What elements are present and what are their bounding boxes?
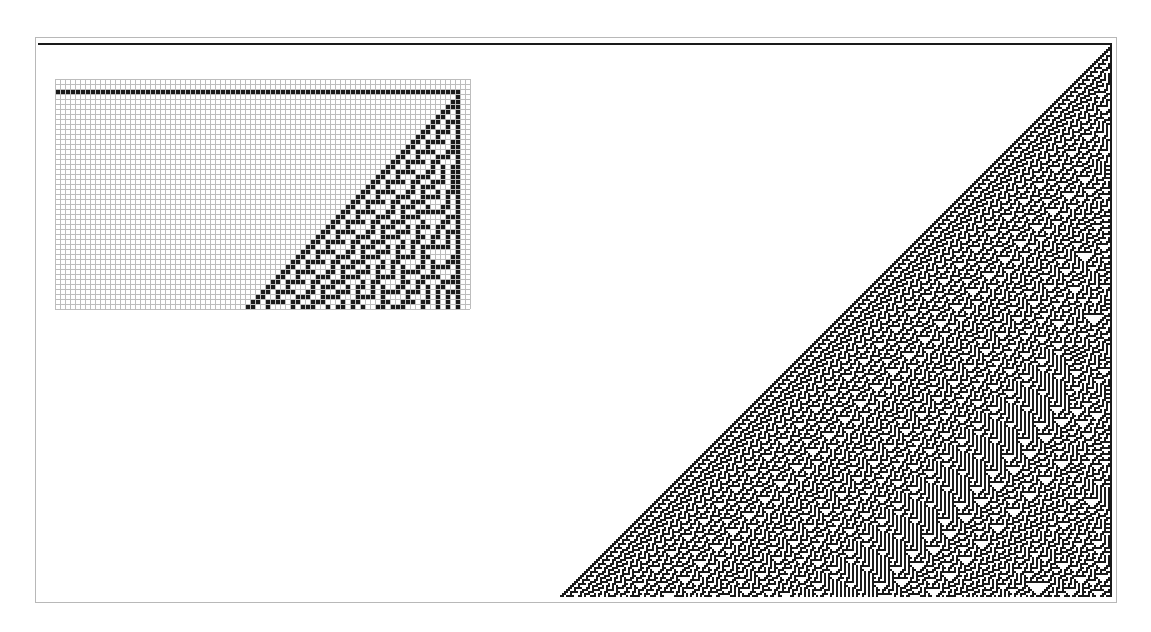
- automaton-inset: [55, 79, 471, 310]
- automaton-inset-grid: [55, 79, 471, 310]
